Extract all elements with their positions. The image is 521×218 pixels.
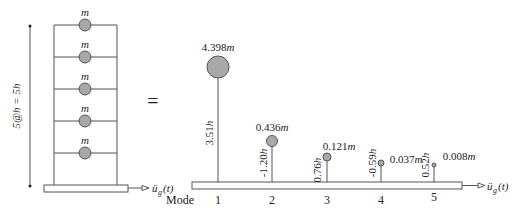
- mode-4: 0.037m -0.59h: [366, 148, 422, 182]
- mode-number-5: 5: [431, 190, 437, 204]
- mass-floor-4: [79, 51, 91, 63]
- mass-floor-5: [79, 19, 91, 31]
- modal-excitation-arrow-head: [478, 183, 485, 188]
- mode-5: 0.008m 0.52h: [419, 150, 475, 182]
- modal-base-plate: [192, 182, 462, 189]
- mode-2-mass-label: 0.436m: [256, 121, 289, 133]
- mode-1: 4.398m 3.51h: [202, 41, 235, 182]
- modal-equivalence-diagram: m m m m m 5@h = 5h ü g (t) = ü g (t) 4.3…: [0, 0, 521, 218]
- mass-floor-1: [79, 147, 91, 159]
- modal-base: [192, 182, 485, 189]
- mass-label: m: [81, 70, 89, 82]
- mode-number-3: 3: [324, 193, 330, 207]
- equals-sign: =: [147, 90, 158, 112]
- height-label: 5@h = 5h: [10, 83, 22, 129]
- mode-4-height-label: -0.59h: [366, 148, 378, 177]
- mode-number-4: 4: [378, 193, 384, 207]
- mode-axis-label: Mode: [166, 193, 194, 207]
- mode-3-mass: [323, 153, 331, 161]
- mode-2-mass: [267, 136, 278, 147]
- mode-2: 0.436m -1.20h: [256, 121, 289, 182]
- mode-3-height-label: 0.76h: [311, 157, 323, 182]
- dimension-tick-bottom: [29, 185, 32, 188]
- modal-excitation-label: ü g (t): [487, 180, 509, 195]
- excitation-subscript: g: [158, 188, 162, 197]
- mode-1-height-label: 3.51h: [203, 120, 215, 145]
- mode-4-mass: [378, 160, 384, 166]
- building-base: [44, 185, 128, 192]
- mode-number-1: 1: [215, 193, 221, 207]
- mode-1-mass-label: 4.398m: [202, 41, 235, 53]
- mass-label: m: [81, 134, 89, 146]
- mass-label: m: [81, 38, 89, 50]
- mode-4-mass-label: 0.037m: [390, 153, 423, 165]
- dimension-tick-top: [29, 25, 32, 28]
- excitation-subscript: g: [493, 186, 497, 195]
- mass-floor-3: [79, 83, 91, 95]
- mode-1-mass: [207, 56, 229, 78]
- excitation-argument: (t): [498, 180, 509, 193]
- mode-number-2: 2: [269, 193, 275, 207]
- mode-5-mass: [432, 163, 436, 167]
- mass-label: m: [81, 102, 89, 114]
- mode-3-mass-label: 0.121m: [323, 140, 356, 152]
- mass-label: m: [81, 6, 89, 18]
- mode-3: 0.121m 0.76h: [311, 140, 355, 182]
- mode-2-height-label: -1.20h: [257, 148, 269, 177]
- mode-5-mass-label: 0.008m: [443, 150, 476, 162]
- excitation-arrow-head: [142, 186, 149, 191]
- mass-floor-2: [79, 115, 91, 127]
- mode-5-height-label: 0.52h: [419, 152, 431, 177]
